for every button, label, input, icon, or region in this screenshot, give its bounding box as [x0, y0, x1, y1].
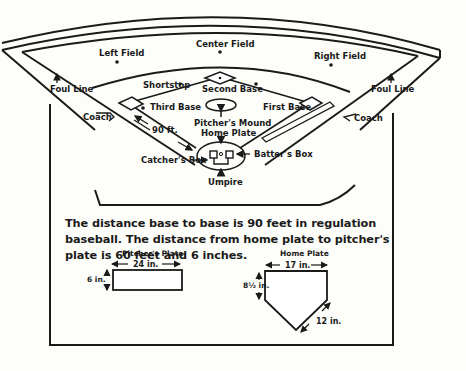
batters-box-right [226, 151, 233, 158]
label-pitchers-mound: Pitcher's Mound [194, 118, 271, 128]
label-coach-left: Coach [83, 112, 112, 122]
batters-box-left [210, 151, 217, 158]
label-right-field: Right Field [314, 51, 366, 61]
label-batters-box: Batter's Box [254, 149, 313, 159]
label-foul-line-left: Foul Line [50, 84, 94, 94]
label-distance: 90 ft. [152, 125, 178, 135]
label-left-field: Left Field [99, 48, 144, 58]
description-text: The distance base to base is 90 feet in … [65, 216, 395, 264]
label-coach-right: Coach [354, 113, 383, 123]
baseball-field-diagram: Left Field Center Field Right Field Shor… [0, 0, 466, 371]
label-second-base: Second Base [202, 84, 263, 94]
label-first-base: First Base [263, 102, 311, 112]
pitchers-plate-shape [113, 270, 182, 290]
catchers-box [214, 158, 228, 164]
label-umpire: Umpire [208, 177, 243, 187]
label-shortstop: Shortstop [143, 80, 190, 90]
pitchers-plate-height: 6 in. [87, 275, 106, 284]
label-third-base: Third Base [150, 102, 201, 112]
field-boundary [2, 50, 440, 345]
label-foul-line-right: Foul Line [371, 84, 415, 94]
home-plate-side: 8½ in. [243, 281, 270, 290]
label-home-plate: Home Plate [201, 128, 256, 138]
label-center-field: Center Field [196, 39, 255, 49]
home-plate-diagonal: 12 in. [316, 317, 341, 326]
label-catchers-box: Catcher's Box [141, 155, 207, 165]
